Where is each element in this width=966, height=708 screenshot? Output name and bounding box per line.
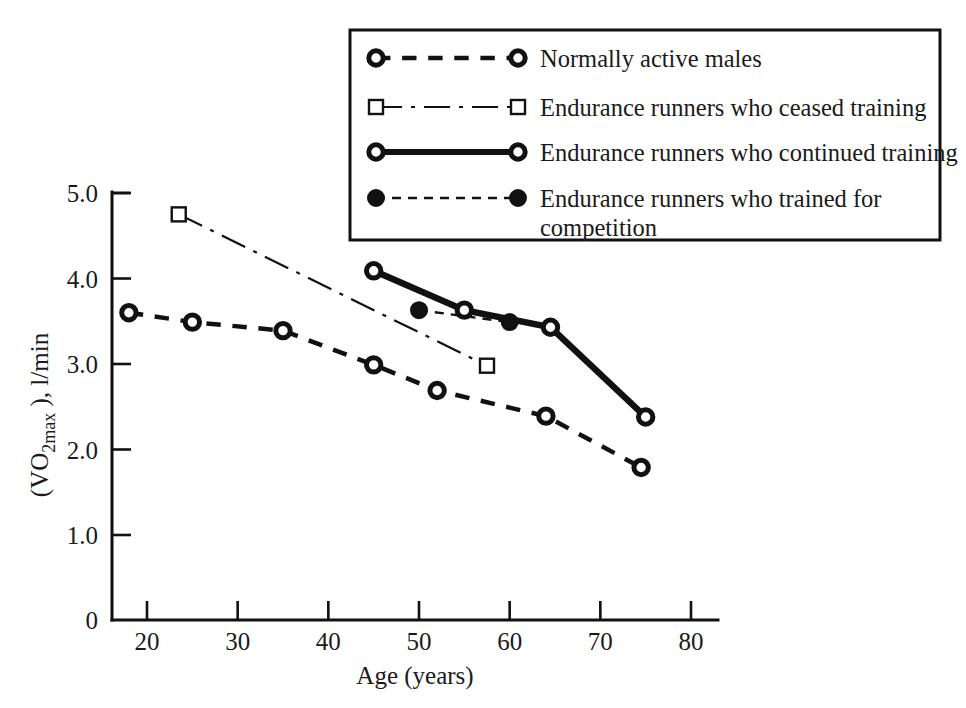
data-point-marker (411, 302, 427, 318)
x-tick-label-60: 60 (497, 628, 522, 655)
x-tick-label-50: 50 (407, 628, 432, 655)
data-point-marker (511, 51, 525, 65)
legend-label: Endurance runners who trained for (540, 185, 882, 212)
y-axis-origin-label: 0 (86, 607, 99, 634)
chart-figure: 1.02.03.04.05.0 20304050607080 0 Age (ye… (0, 0, 966, 708)
y-axis-title-prefix: (VO (26, 453, 54, 497)
data-point-marker (366, 264, 380, 278)
data-point-marker (510, 190, 526, 206)
legend-label: Endurance runners who continued training (540, 139, 958, 166)
data-point-marker (366, 358, 380, 372)
y-axis-title-subscript: 2max (39, 413, 59, 453)
x-tick-label-20: 20 (135, 628, 160, 655)
y-tick-label-4.0: 4.0 (67, 266, 98, 293)
x-tick-label-30: 30 (225, 628, 250, 655)
data-point-marker (369, 100, 383, 114)
legend-label: Normally active males (540, 45, 762, 72)
data-point-marker (172, 207, 186, 221)
legend-label: Endurance runners who ceased training (540, 94, 926, 121)
x-axis-title: Age (years) (356, 662, 473, 690)
data-point-marker (276, 323, 290, 337)
y-axis-title: (VO2max ), l/min (26, 332, 59, 497)
series-1 (122, 306, 649, 475)
chart-legend: Normally active malesEndurance runners w… (350, 30, 958, 241)
chart-axes (112, 192, 718, 620)
y-axis-ticks: 1.02.03.04.05.0 (67, 180, 131, 549)
data-point-marker (369, 145, 383, 159)
data-point-marker (368, 190, 384, 206)
y-axis-title-suffix: ), l/min (26, 332, 54, 412)
x-tick-label-70: 70 (588, 628, 613, 655)
chart-series-layer (122, 207, 653, 474)
data-point-marker (511, 145, 525, 159)
series-line (374, 271, 646, 417)
x-tick-label-40: 40 (316, 628, 341, 655)
y-tick-label-5.0: 5.0 (67, 180, 98, 207)
legend-label-line2: competition (540, 214, 657, 241)
data-point-marker (634, 460, 648, 474)
series-3 (366, 264, 652, 425)
data-point-marker (480, 359, 494, 373)
data-point-marker (185, 315, 199, 329)
y-tick-label-1.0: 1.0 (67, 522, 98, 549)
x-tick-label-80: 80 (679, 628, 704, 655)
y-tick-label-2.0: 2.0 (67, 437, 98, 464)
data-point-marker (502, 314, 518, 330)
x-axis-ticks: 20304050607080 (135, 601, 704, 655)
y-axis-title-group: (VO2max ), l/min (26, 332, 59, 497)
y-tick-label-3.0: 3.0 (67, 351, 98, 378)
vo2max-age-line-chart: 1.02.03.04.05.0 20304050607080 0 Age (ye… (0, 0, 966, 708)
data-point-marker (638, 410, 652, 424)
data-point-marker (539, 409, 553, 423)
data-point-marker (369, 51, 383, 65)
data-point-marker (122, 306, 136, 320)
data-point-marker (430, 383, 444, 397)
data-point-marker (543, 320, 557, 334)
data-point-marker (511, 100, 525, 114)
